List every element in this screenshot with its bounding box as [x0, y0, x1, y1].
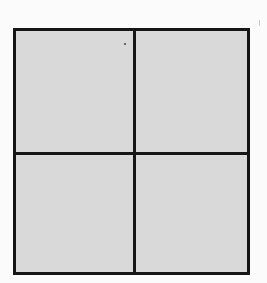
grid-cell-bottom-left: [16, 155, 133, 272]
grid-cell-top-right: [136, 31, 247, 152]
dot-mark: [124, 43, 126, 45]
grid-cell-top-left: [16, 31, 133, 152]
horizontal-divider: [16, 152, 247, 155]
grid-cell-bottom-right: [136, 155, 247, 272]
tick-mark: [259, 20, 260, 26]
two-by-two-grid: [13, 28, 250, 275]
